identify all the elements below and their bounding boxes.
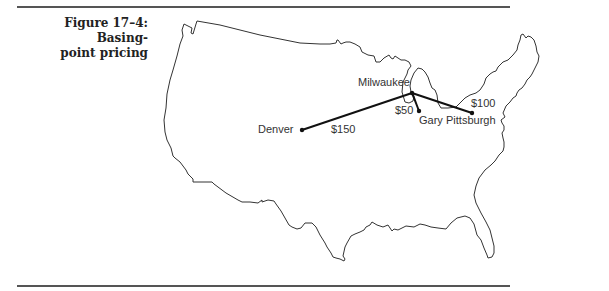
us-outline xyxy=(164,21,539,261)
bottom-rule xyxy=(17,285,510,287)
label-gary: Gary xyxy=(419,114,443,126)
marker-denver xyxy=(300,128,304,132)
label-milwaukee: Milwaukee xyxy=(358,76,410,88)
marker-milwaukee xyxy=(410,91,414,95)
label-cost-denver: $150 xyxy=(331,123,355,135)
label-cost-pittsburgh: $100 xyxy=(471,97,495,109)
label-denver: Denver xyxy=(258,123,294,135)
marker-gary xyxy=(417,109,421,113)
us-map: Milwaukee Denver Gary Pittsburgh $150 $5… xyxy=(0,0,609,291)
route-milwaukee-pittsburgh xyxy=(412,93,472,113)
label-cost-gary: $50 xyxy=(395,104,413,116)
label-pittsburgh: Pittsburgh xyxy=(446,114,496,126)
